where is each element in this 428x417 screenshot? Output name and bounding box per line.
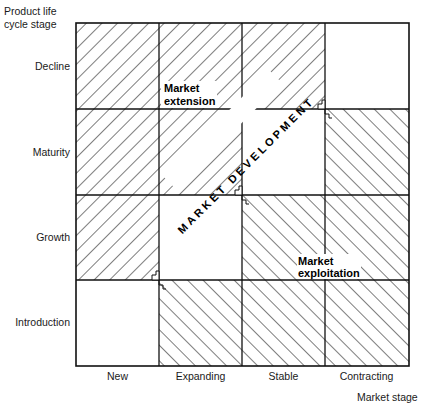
x-axis-title: Market stage (357, 391, 418, 403)
market-extension-label: Market extension (164, 82, 215, 108)
market-exploitation-label-line1: Market (298, 255, 360, 267)
col-label-stable: Stable (242, 370, 325, 382)
col-label-contracting: Contracting (325, 370, 408, 382)
market-extension-label-line1: Market (164, 82, 215, 95)
row-label-growth: Growth (0, 231, 70, 243)
market-exploitation-label-line2: exploitation (298, 267, 360, 279)
row-label-decline: Decline (0, 60, 70, 72)
y-axis-title: Product life cycle stage (4, 5, 57, 31)
col-label-expanding: Expanding (159, 370, 242, 382)
y-axis-title-line2: cycle stage (4, 18, 57, 31)
market-exploitation-label: Market exploitation (298, 255, 360, 279)
col-label-new: New (76, 370, 159, 382)
market-extension-label-line2: extension (164, 95, 215, 108)
y-axis-title-line1: Product life (4, 5, 57, 18)
row-label-maturity: Maturity (0, 146, 70, 158)
row-label-introduction: Introduction (0, 316, 70, 328)
